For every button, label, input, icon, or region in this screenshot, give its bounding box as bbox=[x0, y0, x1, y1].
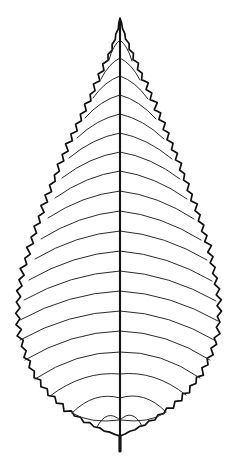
leaf-illustration-figure bbox=[0, 0, 239, 473]
leaf-drawing-canvas bbox=[0, 0, 239, 473]
